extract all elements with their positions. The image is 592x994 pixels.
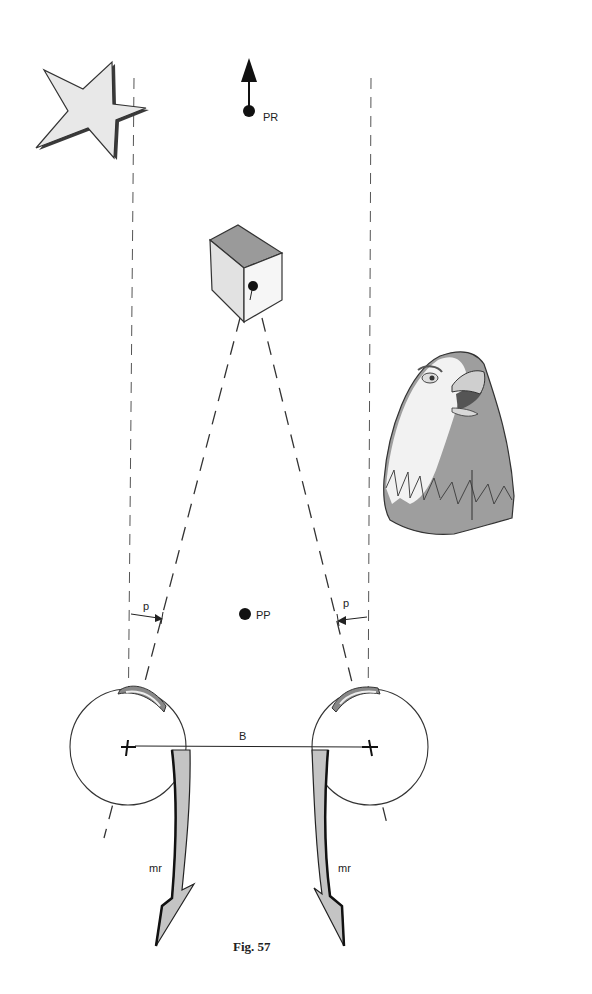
right-parallel-axis xyxy=(368,78,371,742)
arrow-up-icon xyxy=(241,58,257,82)
left-angle-label: p xyxy=(143,600,149,612)
near-point-marker xyxy=(239,608,251,620)
near-point-label: PP xyxy=(256,609,271,621)
right-angle-label: p xyxy=(343,597,349,609)
eagle-head-icon xyxy=(384,352,514,535)
left-muscle-label: mr xyxy=(149,862,162,874)
left-eye-icon xyxy=(70,686,186,805)
right-muscle-label: mr xyxy=(338,862,351,874)
far-point-label: PR xyxy=(263,111,278,123)
right-eye-icon xyxy=(312,687,428,805)
figure-caption: Fig. 57 xyxy=(233,939,271,954)
baseline-label: B xyxy=(239,730,246,742)
far-point-marker xyxy=(241,58,257,117)
binocular-convergence-diagram: PR p p PP xyxy=(0,0,592,994)
left-parallel-axis xyxy=(128,78,134,742)
right-angle-indicator xyxy=(337,614,367,626)
star-icon xyxy=(36,62,149,160)
left-angle-indicator xyxy=(131,612,163,624)
cube-icon xyxy=(210,225,282,322)
